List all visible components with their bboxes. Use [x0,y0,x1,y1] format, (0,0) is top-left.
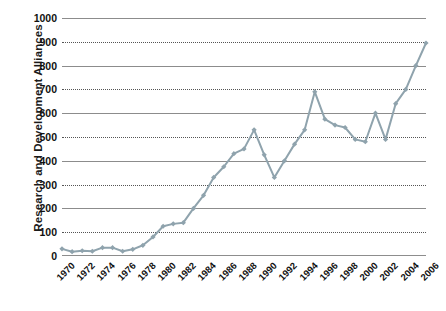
x-tick-label: 1988 [236,260,259,283]
x-tick-label: 1984 [196,260,219,283]
data-point-marker [110,245,115,250]
x-tick-label: 1972 [74,260,97,283]
x-tick-label: 1982 [175,260,198,283]
x-tick-label: 1992 [276,260,299,283]
data-point-marker [70,249,75,254]
x-tick-label: 1978 [135,260,158,283]
data-point-marker [90,249,95,254]
y-tick-label: 400 [39,155,57,167]
x-tick-label: 1998 [337,260,360,283]
y-tick-label: 1000 [34,12,57,24]
data-point-marker [100,245,105,250]
data-point-marker [120,249,125,254]
x-tick-label: 2002 [378,260,401,283]
data-point-marker [171,221,176,226]
y-tick-label: 200 [39,202,57,214]
y-tick-label: 800 [39,60,57,72]
x-tick-label: 1994 [297,260,320,283]
x-tick-label: 1980 [155,260,178,283]
y-tick-label: 700 [39,83,57,95]
y-tick-label: 0 [51,250,57,262]
x-tick-label: 2004 [398,260,421,283]
x-tick-label: 1970 [54,260,77,283]
y-tick-label: 900 [39,36,57,48]
x-tick-label: 1986 [216,260,239,283]
x-tick-label: 2000 [357,260,380,283]
data-point-marker [312,89,317,94]
x-tick-label: 1974 [94,260,117,283]
y-tick-label: 300 [39,179,57,191]
plot-area: 01002003004005006007008009001000 1970197… [62,18,426,256]
chart-container: Research and Development Alliances 01002… [0,0,446,311]
data-point-marker [383,137,388,142]
y-tick-label: 100 [39,226,57,238]
x-tick-label: 1976 [115,260,138,283]
data-series-line [62,18,426,256]
data-point-marker [59,246,64,251]
data-point-marker [80,248,85,253]
x-tick-label: 1990 [256,260,279,283]
y-tick-label: 500 [39,131,57,143]
data-point-marker [363,139,368,144]
y-tick-label: 600 [39,107,57,119]
x-tick-label: 2006 [418,260,441,283]
data-point-marker [373,111,378,116]
data-point-marker [130,247,135,252]
x-tick-label: 1996 [317,260,340,283]
